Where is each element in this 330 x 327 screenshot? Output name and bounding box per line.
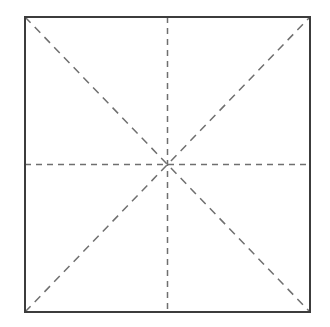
square-crease-diagram (0, 0, 330, 327)
figure-root (0, 0, 330, 327)
diagram-background (0, 0, 330, 327)
